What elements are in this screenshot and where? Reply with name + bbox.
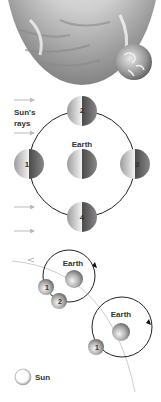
path-arrow-icon <box>28 258 34 262</box>
sun-legend-label: Sun <box>35 373 50 382</box>
sun-legend-icon <box>15 369 31 385</box>
moon-a1-label: 1 <box>45 284 49 291</box>
rays-label-line1: Sun's <box>14 108 36 117</box>
moon-2-label: 2 <box>80 106 85 115</box>
earth-2 <box>112 323 130 341</box>
moon-1-label: 1 <box>25 160 30 169</box>
orbit-direction-arrow-icon-2 <box>146 319 151 325</box>
center-earth <box>67 149 97 179</box>
moon-a2-label: 2 <box>58 298 62 305</box>
earth-1 <box>65 270 83 288</box>
center-earth-label: Earth <box>72 140 93 149</box>
moon-phases-diagram: Sun's rays Earth 2 1 3 4 Earth 1 2 <box>0 0 161 402</box>
moon-3-label: 3 <box>135 160 140 169</box>
earth1-label: Earth <box>63 259 84 268</box>
moon-4-label: 4 <box>80 213 85 222</box>
earth2-label: Earth <box>111 310 132 319</box>
rays-label-line2: rays <box>14 119 31 128</box>
earth-globe-image <box>116 44 152 80</box>
moon-b1-label: 1 <box>95 344 99 351</box>
orbit-direction-arrow-icon <box>92 262 97 268</box>
